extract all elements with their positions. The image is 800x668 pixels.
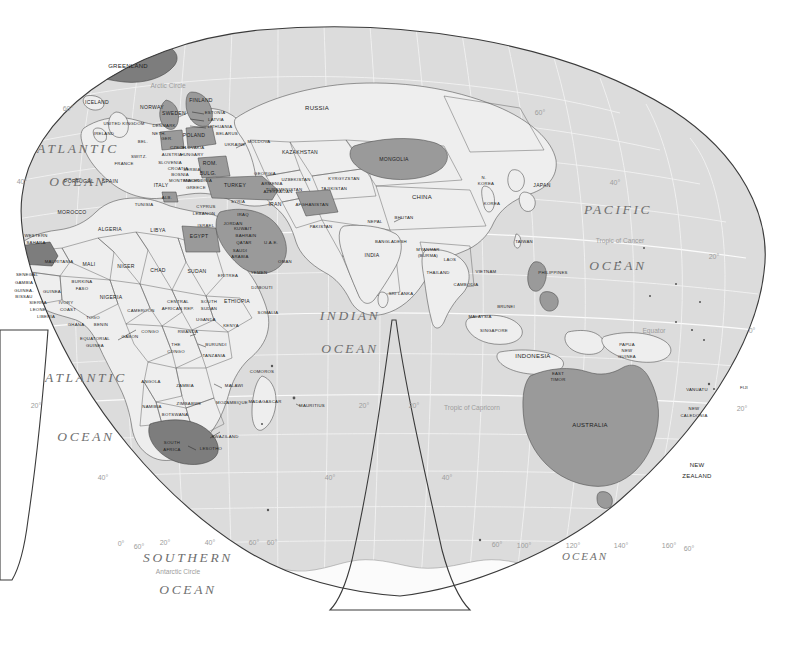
country-label-sahara[interactable]: SAHARA: [26, 240, 45, 245]
country-label-western[interactable]: WESTERN: [24, 233, 47, 238]
country-label-greenland[interactable]: GREENLAND: [108, 63, 148, 69]
country-label-guinea[interactable]: GUINEA-: [14, 288, 34, 293]
country-label-alb[interactable]: ALB.: [162, 195, 172, 200]
country-label-eritrea[interactable]: ERITREA: [218, 273, 238, 278]
country-label-faso[interactable]: FASO: [76, 286, 89, 291]
country-label-ethiopia[interactable]: ETHIOPIA: [224, 298, 250, 304]
country-label-n[interactable]: N.: [482, 175, 487, 180]
country-label-united-kingdom[interactable]: UNITED KINGDOM: [103, 121, 144, 126]
country-label-israel[interactable]: ISRAEL: [198, 223, 215, 228]
country-label-new[interactable]: NEW: [622, 348, 633, 353]
country-label-east[interactable]: EAST: [552, 371, 564, 376]
country-label-nepal[interactable]: NEPAL: [367, 219, 382, 224]
country-label-angola[interactable]: ANGOLA: [141, 379, 160, 384]
country-label-vietnam[interactable]: VIETNAM: [476, 269, 497, 274]
country-label-nigeria[interactable]: NIGERIA: [100, 294, 123, 300]
country-label-australia[interactable]: AUSTRALIA: [572, 422, 608, 428]
country-label-iran[interactable]: IRAN: [268, 201, 281, 207]
country-label-sweden[interactable]: SWEDEN: [162, 110, 186, 116]
country-label-finland[interactable]: FINLAND: [189, 97, 213, 103]
country-label-ireland[interactable]: IRELAND: [94, 131, 114, 136]
country-label-zimbabwe[interactable]: ZIMBABWE: [177, 401, 202, 406]
country-label-armenia[interactable]: ARMENIA: [261, 181, 282, 186]
country-label-equatorial[interactable]: EQUATORIAL: [80, 336, 110, 341]
country-label-china[interactable]: CHINA: [412, 194, 432, 200]
country-label-botswana[interactable]: BOTSWANA: [162, 412, 188, 417]
country-label-papua[interactable]: PAPUA: [619, 342, 635, 347]
country-label-caledonia[interactable]: CALEDONIA: [680, 413, 707, 418]
country-label-hungary[interactable]: HUNGARY: [180, 152, 203, 157]
country-label-slovakia[interactable]: SLOVAKIA: [182, 145, 205, 150]
country-label-qatar[interactable]: QATAR: [236, 240, 251, 245]
country-label-greece[interactable]: GREECE: [186, 185, 206, 190]
country-label-kazakhstan[interactable]: KAZAKHSTAN: [282, 149, 318, 155]
country-label-malawi[interactable]: MALAWI: [225, 383, 243, 388]
country-label-lesotho[interactable]: LESOTHO: [200, 446, 223, 451]
country-label-korea[interactable]: KOREA: [478, 181, 494, 186]
country-label-burma[interactable]: (BURMA): [418, 253, 438, 258]
country-label-djibouti[interactable]: DJIBOUTI: [251, 285, 273, 290]
country-label-latvia[interactable]: LATVIA: [208, 117, 224, 122]
country-label-kyrgyzstan[interactable]: KYRGYZSTAN: [328, 176, 359, 181]
country-label-leone[interactable]: LEONE: [30, 307, 46, 312]
country-label-niger[interactable]: NIGER: [117, 263, 134, 269]
country-label-tajikistan[interactable]: TAJIKISTAN: [321, 186, 347, 191]
country-label-guinea[interactable]: GUINEA: [43, 289, 61, 294]
country-label-philippines[interactable]: PHILIPPINES: [538, 270, 567, 275]
country-label-chad[interactable]: CHAD: [150, 267, 166, 273]
country-label-burkina[interactable]: BURKINA: [72, 279, 93, 284]
country-label-zealand[interactable]: ZEALAND: [682, 473, 712, 479]
country-label-congo[interactable]: CONGO: [141, 329, 159, 334]
country-label-yemen[interactable]: YEMEN: [251, 270, 268, 275]
country-label-ukraine[interactable]: UKRAINE: [225, 142, 246, 147]
country-label-spain[interactable]: SPAIN: [102, 178, 118, 184]
country-label-guinea[interactable]: GUINEA: [618, 354, 636, 359]
country-label-vanuatu[interactable]: VANUATU: [686, 387, 708, 392]
country-label-south[interactable]: SOUTH: [164, 440, 180, 445]
country-label-arabia[interactable]: ARABIA: [231, 254, 248, 259]
country-label-poland[interactable]: POLAND: [183, 132, 206, 138]
country-label-swaziland[interactable]: SWAZILAND: [211, 434, 238, 439]
country-label-iraq[interactable]: IRAQ: [237, 212, 249, 217]
country-label-togo[interactable]: TOGO: [86, 315, 100, 320]
country-label-malaysia[interactable]: MALAYSIA: [468, 314, 491, 319]
country-label-africa[interactable]: AFRICA: [163, 447, 180, 452]
country-label-denmark[interactable]: DENMARK: [152, 123, 175, 128]
country-label-comoros[interactable]: COMOROS: [250, 369, 274, 374]
country-label-bel[interactable]: BEL.: [138, 139, 148, 144]
country-label-bahrain[interactable]: BAHRAIN: [236, 233, 257, 238]
country-label-somalia[interactable]: SOMALIA: [258, 310, 279, 315]
country-label-bhutan[interactable]: BHUTAN: [395, 215, 414, 220]
country-label-gabon[interactable]: GABON: [122, 334, 139, 339]
country-label-african-rep[interactable]: AFRICAN REP.: [162, 306, 195, 311]
country-label-cambodia[interactable]: CAMBODIA: [454, 282, 479, 287]
country-label-estonia[interactable]: ESTONIA: [205, 110, 226, 115]
country-label-ghana[interactable]: GHANA: [68, 322, 85, 327]
country-label-bosnia[interactable]: BOSNIA: [171, 172, 189, 177]
country-label-sudan[interactable]: SUDAN: [187, 268, 206, 274]
country-label-turkmenistan[interactable]: TURKMENISTAN: [266, 187, 303, 192]
country-label-pakistan[interactable]: PAKISTAN: [310, 224, 333, 229]
country-label-oman[interactable]: OMAN: [278, 259, 292, 264]
country-label-south[interactable]: SOUTH: [201, 299, 217, 304]
country-label-indonesia[interactable]: INDONESIA: [515, 353, 550, 359]
country-label-morocco[interactable]: MOROCCO: [58, 209, 87, 215]
country-label-mali[interactable]: MALI: [83, 261, 96, 267]
country-label-turkey[interactable]: TURKEY: [224, 182, 247, 188]
country-label-congo[interactable]: CONGO: [167, 349, 185, 354]
country-label-india[interactable]: INDIA: [365, 252, 380, 258]
country-label-mozambique[interactable]: MOZAMBIQUE: [216, 400, 248, 405]
country-label-burundi[interactable]: BURUNDI: [205, 342, 226, 347]
country-label-afghanistan[interactable]: AFGHANISTAN: [296, 202, 329, 207]
country-label-algeria[interactable]: ALGERIA: [98, 226, 122, 232]
country-label-laos[interactable]: LAOS: [444, 257, 456, 262]
country-label-bangladesh[interactable]: BANGLADESH: [375, 239, 407, 244]
country-label-russia[interactable]: RUSSIA: [305, 105, 329, 111]
country-label-italy[interactable]: ITALY: [154, 182, 169, 188]
country-label-rwanda[interactable]: RWANDA: [178, 329, 198, 334]
country-label-mauritius[interactable]: MAURITIUS: [299, 403, 325, 408]
country-label-libya[interactable]: LIBYA: [150, 227, 166, 233]
country-label-belarus[interactable]: BELARUS: [216, 131, 238, 136]
country-label-georgia[interactable]: GEORGIA: [254, 171, 276, 176]
country-label-rom[interactable]: ROM.: [203, 160, 217, 166]
